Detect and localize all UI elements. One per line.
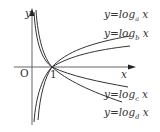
logarithm-graph-figure: y x O 1 y=loga x y=logb x y=logc x y=log… <box>0 0 160 132</box>
y-axis <box>30 8 35 125</box>
y-axis-label: y <box>24 7 32 19</box>
label-log-d: y=logd x <box>103 106 149 121</box>
label-log-a: y=loga x <box>103 8 148 23</box>
label-log-c: y=logc x <box>103 88 148 103</box>
label-log-b: y=logb x <box>103 27 149 42</box>
curve-log-b <box>34 12 130 67</box>
unit-tick-label: 1 <box>50 68 57 80</box>
x-axis-arrow-icon <box>128 65 136 70</box>
origin-label: O <box>20 67 29 79</box>
x-axis-label: x <box>121 68 127 80</box>
